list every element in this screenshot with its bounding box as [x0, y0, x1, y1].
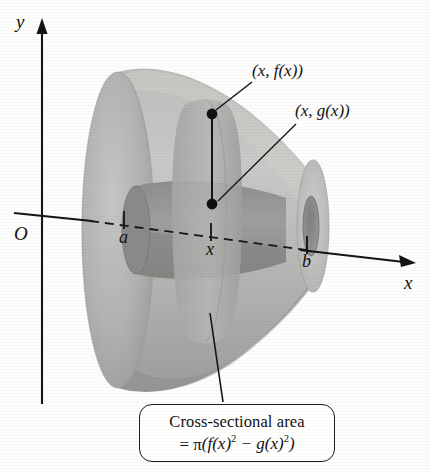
x-axis-line-left — [14, 213, 92, 221]
tick-label-b: b — [302, 252, 311, 270]
washer-method-diagram: y x O a x b (x, f(x)) (x, g(x)) Cross-se… — [0, 0, 430, 472]
cross-section-slab — [172, 100, 242, 344]
caption-line-2: = π(f(x)2 − g(x)2) — [179, 434, 294, 455]
inner-point-dot — [207, 199, 218, 210]
caption-line-1: Cross-sectional area — [169, 412, 304, 432]
caption-formula-body: (f(x)2 − g(x)2) — [202, 434, 295, 453]
tick-label-a: a — [119, 228, 128, 246]
outer-point-label: (x, f(x)) — [252, 62, 303, 79]
outer-point-dot — [207, 109, 218, 120]
origin-label: O — [14, 224, 28, 243]
inner-point-label: (x, g(x)) — [295, 102, 350, 119]
pi-symbol: π — [193, 434, 202, 453]
y-axis-arrowhead — [37, 18, 48, 34]
cross-section-caption-box: Cross-sectional area = π(f(x)2 − g(x)2) — [139, 404, 335, 462]
y-axis-label: y — [16, 12, 24, 31]
tick-label-x: x — [206, 240, 214, 258]
x-axis-arrowhead — [399, 255, 416, 267]
x-axis-label: x — [404, 273, 412, 292]
caption-equals: = — [179, 434, 193, 453]
diagram-canvas — [0, 0, 430, 472]
